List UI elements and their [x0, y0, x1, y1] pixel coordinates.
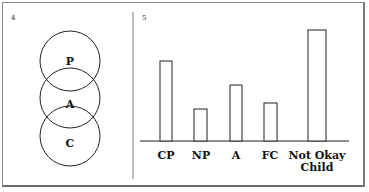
category-labels: CPNPAFCNot OkayChild: [157, 149, 346, 174]
circle-label-c: C: [66, 137, 75, 150]
bar-fc: [264, 103, 277, 141]
category-label: CP: [157, 149, 174, 162]
bar-group: [160, 30, 326, 141]
category-label: Child: [301, 161, 334, 174]
panel-number: 4: [11, 14, 16, 22]
panel-4: 4 P A C: [11, 14, 100, 166]
circle-label-a: A: [65, 98, 75, 111]
bar-a: [230, 85, 242, 141]
bar-cp: [160, 61, 172, 141]
category-label: NP: [192, 149, 210, 162]
bar-not-okay-child: [308, 30, 326, 141]
panel-number: 5: [142, 14, 146, 22]
category-label: FC: [262, 149, 279, 162]
panel-5: 5 CPNPAFCNot OkayChild: [140, 14, 349, 174]
figure-canvas: 4 P A C 5 CPNPAFCNot OkayChild: [0, 0, 369, 192]
child-circle: [40, 106, 100, 166]
bar-np: [194, 109, 207, 141]
category-label: A: [231, 149, 241, 162]
circle-label-p: P: [66, 55, 74, 68]
